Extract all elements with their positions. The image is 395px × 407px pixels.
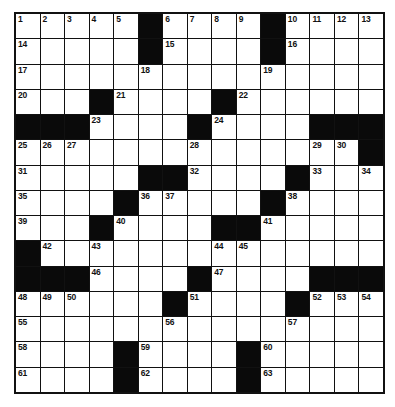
grid-cell[interactable]: [286, 140, 310, 164]
grid-cell[interactable]: [335, 368, 359, 392]
grid-cell[interactable]: [90, 342, 114, 366]
grid-cell[interactable]: 2: [41, 14, 65, 38]
grid-cell[interactable]: [359, 90, 383, 114]
grid-cell[interactable]: 44: [212, 241, 236, 265]
grid-cell[interactable]: [90, 317, 114, 341]
grid-cell[interactable]: [310, 216, 334, 240]
grid-cell[interactable]: 35: [16, 191, 40, 215]
grid-cell[interactable]: [237, 115, 261, 139]
grid-cell[interactable]: 11: [310, 14, 334, 38]
grid-cell[interactable]: [90, 39, 114, 63]
grid-cell[interactable]: 60: [261, 342, 285, 366]
grid-cell[interactable]: [261, 115, 285, 139]
grid-cell[interactable]: [139, 115, 163, 139]
grid-cell[interactable]: 34: [359, 166, 383, 190]
grid-cell[interactable]: 57: [286, 317, 310, 341]
grid-cell[interactable]: [335, 342, 359, 366]
grid-cell[interactable]: 13: [359, 14, 383, 38]
grid-cell[interactable]: [286, 90, 310, 114]
grid-cell[interactable]: 36: [139, 191, 163, 215]
grid-cell[interactable]: 17: [16, 65, 40, 89]
grid-cell[interactable]: 10: [286, 14, 310, 38]
grid-cell[interactable]: [286, 115, 310, 139]
grid-cell[interactable]: [310, 342, 334, 366]
grid-cell[interactable]: 25: [16, 140, 40, 164]
grid-cell[interactable]: 39: [16, 216, 40, 240]
grid-cell[interactable]: 42: [41, 241, 65, 265]
grid-cell[interactable]: [335, 166, 359, 190]
grid-cell[interactable]: [65, 342, 89, 366]
grid-cell[interactable]: 21: [114, 90, 138, 114]
grid-cell[interactable]: [212, 317, 236, 341]
grid-cell[interactable]: 33: [310, 166, 334, 190]
grid-cell[interactable]: [41, 166, 65, 190]
grid-cell[interactable]: [359, 216, 383, 240]
grid-cell[interactable]: 16: [286, 39, 310, 63]
grid-cell[interactable]: 32: [188, 166, 212, 190]
grid-cell[interactable]: [188, 39, 212, 63]
grid-cell[interactable]: [310, 90, 334, 114]
grid-cell[interactable]: [261, 292, 285, 316]
grid-cell[interactable]: 45: [237, 241, 261, 265]
grid-cell[interactable]: 24: [212, 115, 236, 139]
grid-cell[interactable]: [41, 368, 65, 392]
grid-cell[interactable]: 26: [41, 140, 65, 164]
grid-cell[interactable]: [41, 216, 65, 240]
grid-cell[interactable]: 7: [188, 14, 212, 38]
grid-cell[interactable]: [335, 241, 359, 265]
grid-cell[interactable]: 41: [261, 216, 285, 240]
grid-cell[interactable]: [335, 191, 359, 215]
grid-cell[interactable]: [335, 39, 359, 63]
grid-cell[interactable]: 56: [163, 317, 187, 341]
grid-cell[interactable]: [139, 90, 163, 114]
grid-cell[interactable]: [237, 191, 261, 215]
grid-cell[interactable]: [188, 65, 212, 89]
grid-cell[interactable]: [188, 368, 212, 392]
grid-cell[interactable]: 30: [335, 140, 359, 164]
grid-cell[interactable]: 14: [16, 39, 40, 63]
grid-cell[interactable]: 3: [65, 14, 89, 38]
grid-cell[interactable]: 40: [114, 216, 138, 240]
grid-cell[interactable]: 27: [65, 140, 89, 164]
grid-cell[interactable]: [237, 140, 261, 164]
grid-cell[interactable]: [212, 191, 236, 215]
grid-cell[interactable]: [65, 191, 89, 215]
grid-cell[interactable]: [163, 90, 187, 114]
grid-cell[interactable]: [114, 140, 138, 164]
grid-cell[interactable]: [139, 241, 163, 265]
grid-cell[interactable]: [237, 166, 261, 190]
grid-cell[interactable]: [114, 292, 138, 316]
grid-cell[interactable]: [41, 317, 65, 341]
grid-cell[interactable]: [188, 216, 212, 240]
grid-cell[interactable]: [139, 267, 163, 291]
grid-cell[interactable]: [114, 267, 138, 291]
grid-cell[interactable]: [237, 267, 261, 291]
grid-cell[interactable]: [310, 65, 334, 89]
grid-cell[interactable]: [335, 90, 359, 114]
grid-cell[interactable]: [65, 166, 89, 190]
grid-cell[interactable]: 12: [335, 14, 359, 38]
grid-cell[interactable]: [188, 90, 212, 114]
grid-cell[interactable]: [139, 140, 163, 164]
grid-cell[interactable]: 51: [188, 292, 212, 316]
grid-cell[interactable]: [188, 191, 212, 215]
grid-cell[interactable]: [261, 140, 285, 164]
grid-cell[interactable]: [90, 65, 114, 89]
grid-cell[interactable]: [310, 39, 334, 63]
grid-cell[interactable]: [188, 342, 212, 366]
grid-cell[interactable]: [261, 90, 285, 114]
grid-cell[interactable]: 37: [163, 191, 187, 215]
grid-cell[interactable]: 58: [16, 342, 40, 366]
grid-cell[interactable]: [286, 267, 310, 291]
grid-cell[interactable]: [90, 166, 114, 190]
grid-cell[interactable]: [212, 140, 236, 164]
grid-cell[interactable]: 9: [237, 14, 261, 38]
grid-cell[interactable]: [163, 140, 187, 164]
grid-cell[interactable]: 20: [16, 90, 40, 114]
grid-cell[interactable]: [90, 191, 114, 215]
grid-cell[interactable]: [65, 317, 89, 341]
grid-cell[interactable]: 15: [163, 39, 187, 63]
grid-cell[interactable]: [212, 39, 236, 63]
grid-cell[interactable]: [261, 241, 285, 265]
grid-cell[interactable]: [114, 166, 138, 190]
